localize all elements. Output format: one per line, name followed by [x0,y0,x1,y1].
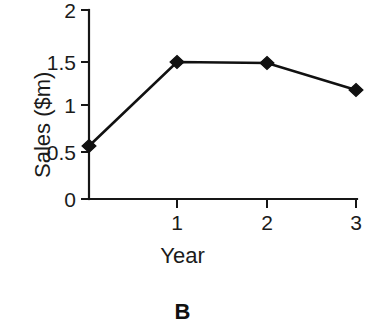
y-tick-label-1-5: 1.5 [31,52,76,73]
y-axis-title: Sales ($m) [30,72,56,178]
chart-figure: 2 1.5 1 0.5 0 1 2 3 Sales ($m) Year B [0,0,365,329]
x-tick-label-1: 1 [171,212,183,233]
x-tick-label-3: 3 [350,212,362,233]
panel-label: B [0,299,365,325]
data-point-year3 [349,84,363,97]
data-point-year2 [260,57,274,70]
y-tick-label-0: 0 [40,189,76,210]
x-tick-label-2: 2 [261,212,273,233]
y-tick-label-2: 2 [40,0,76,21]
x-axis-title: Year [0,243,365,269]
sales-series-line [89,62,356,146]
